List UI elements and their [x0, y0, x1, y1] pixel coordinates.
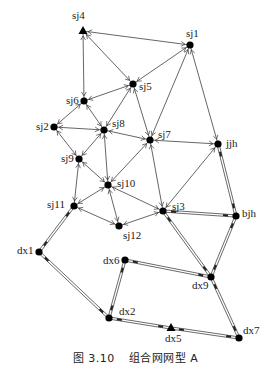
edge-sj4-sj1 — [83, 30, 190, 46]
node-label-jjh: jjh — [226, 138, 238, 149]
node-label-sj11: sj11 — [47, 199, 65, 210]
node-dx7-dot-icon — [235, 334, 242, 341]
edge-dx2-dx5 — [109, 317, 171, 329]
node-sj8-dot-icon — [100, 126, 107, 133]
edge-sj4-sj6 — [81, 31, 87, 101]
node-label-dx9: dx9 — [192, 280, 209, 291]
node-sj11-dot-icon — [70, 202, 77, 209]
edges-layer — [38, 30, 240, 339]
node-label-dx7: dx7 — [243, 325, 260, 336]
figure-title: 组合网网型 A — [129, 352, 199, 365]
edge-sj8-sj7 — [104, 130, 150, 141]
edge-sj12-sj3 — [119, 211, 163, 226]
edge-jjh-bjh — [217, 144, 237, 217]
node-sj6-dot-icon — [80, 97, 87, 104]
node-dx1-dot-icon — [35, 248, 42, 255]
edge-sj1-jjh — [190, 45, 218, 144]
nodes-layer — [35, 26, 242, 342]
edge-dx1-dx2 — [38, 251, 110, 319]
node-label-sj6: sj6 — [66, 95, 79, 106]
node-label-sj2: sj2 — [36, 121, 49, 132]
node-label-sj3: sj3 — [172, 201, 185, 212]
node-sj1-dot-icon — [186, 41, 193, 48]
figure-number: 图 3.10 — [73, 352, 115, 365]
figure-caption: 图 3.10组合网网型 A — [0, 349, 271, 365]
edge-sj10-sj11 — [74, 185, 108, 206]
node-sj12-dot-icon — [115, 222, 122, 229]
edge-sj11-dx1 — [38, 205, 75, 252]
node-sj2-dot-icon — [50, 123, 57, 130]
edge-sj8-sj9 — [79, 130, 104, 159]
edge-sj7-sj3 — [149, 140, 163, 211]
network-diagram — [0, 0, 271, 369]
node-label-sj4: sj4 — [72, 10, 85, 21]
node-label-sj9: sj9 — [61, 153, 74, 164]
node-label-sj5: sj5 — [139, 81, 152, 92]
node-label-dx5: dx5 — [165, 333, 182, 344]
edge-sj11-sj12 — [74, 206, 119, 226]
edge-sj1-sj7 — [150, 45, 190, 140]
edge-bjh-dx9 — [210, 216, 237, 278]
edge-sj10-sj12 — [108, 185, 119, 226]
node-label-sj7: sj7 — [158, 129, 171, 140]
edge-sj2-sj8 — [54, 125, 104, 132]
edge-dx9-dx7 — [210, 277, 240, 339]
edge-sj6-sj8 — [84, 101, 104, 130]
node-label-bjh: bjh — [242, 208, 256, 219]
node-label-sj8: sj8 — [112, 118, 125, 129]
node-label-sj1: sj1 — [186, 28, 199, 39]
edge-sj9-sj10 — [79, 159, 108, 185]
edge-sj5-sj6 — [84, 84, 133, 101]
node-sj3-dot-icon — [159, 207, 166, 214]
edge-sj4-sj5 — [83, 31, 133, 84]
node-label-dx6: dx6 — [103, 255, 120, 266]
node-label-dx1: dx1 — [17, 245, 34, 256]
node-sj9-dot-icon — [75, 155, 82, 162]
node-label-dx2: dx2 — [119, 306, 136, 317]
node-bjh-dot-icon — [232, 212, 239, 219]
node-jjh-dot-icon — [214, 140, 221, 147]
edge-sj9-sj11 — [73, 159, 81, 206]
node-label-sj10: sj10 — [117, 178, 135, 189]
node-label-sj12: sj12 — [123, 230, 141, 241]
node-sj7-dot-icon — [146, 136, 153, 143]
node-dx2-dot-icon — [105, 314, 112, 321]
node-sj10-dot-icon — [104, 181, 111, 188]
edge-sj5-sj7 — [133, 84, 150, 140]
node-dx6-dot-icon — [121, 256, 128, 263]
edge-sj8-sj10 — [102, 130, 109, 185]
node-sj4-triangle-icon — [79, 26, 88, 34]
node-sj5-dot-icon — [129, 80, 136, 87]
